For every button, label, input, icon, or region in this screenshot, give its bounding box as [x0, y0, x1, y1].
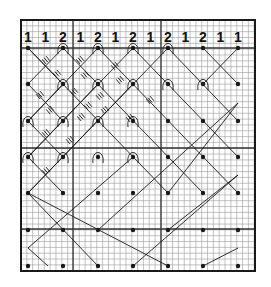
pin-dot: [201, 119, 205, 123]
pin-dot: [236, 191, 240, 195]
pair-count-label: 1: [234, 29, 242, 45]
pin-dot: [201, 191, 205, 195]
pin-dot: [61, 228, 65, 232]
pin-dot: [96, 191, 100, 195]
pair-count-label: 1: [147, 29, 155, 45]
pin-dot: [201, 228, 205, 232]
pin-dot: [166, 191, 170, 195]
pin-dot: [26, 228, 30, 232]
pin-dot: [166, 46, 170, 50]
pin-dot: [166, 228, 170, 232]
pin-dot: [26, 82, 30, 86]
lace-diagram: 1121212121211: [0, 0, 271, 287]
pair-count-label: 1: [182, 29, 190, 45]
pin-dot: [61, 82, 65, 86]
pin-dot: [26, 46, 30, 50]
pin-dot: [201, 82, 205, 86]
pin-dot: [131, 228, 135, 232]
pin-dot: [236, 155, 240, 159]
pin-dot: [236, 264, 240, 268]
pin-dot: [131, 191, 135, 195]
pair-count-label: 2: [94, 29, 102, 45]
pair-count-label: 1: [42, 29, 50, 45]
pin-dot: [236, 82, 240, 86]
pin-dot: [166, 264, 170, 268]
pair-count-label: 2: [199, 29, 207, 45]
pair-count-label: 1: [217, 29, 225, 45]
pair-count-label: 1: [24, 29, 32, 45]
pin-dot: [131, 82, 135, 86]
pin-dot: [131, 46, 135, 50]
pin-dot: [201, 264, 205, 268]
pair-count-label: 2: [59, 29, 67, 45]
pin-dot: [61, 46, 65, 50]
pin-dot: [166, 82, 170, 86]
pin-dot: [131, 155, 135, 159]
pin-dot: [96, 155, 100, 159]
pin-dot: [131, 264, 135, 268]
pin-dot: [61, 119, 65, 123]
pin-dot: [166, 155, 170, 159]
pin-dot: [96, 46, 100, 50]
pin-dot: [61, 191, 65, 195]
pin-dot: [26, 191, 30, 195]
pair-count-label: 1: [77, 29, 85, 45]
pin-dot: [131, 119, 135, 123]
pin-dot: [61, 264, 65, 268]
pin-dot: [201, 155, 205, 159]
pair-count-label: 2: [164, 29, 172, 45]
pin-dot: [26, 264, 30, 268]
pin-dot: [96, 264, 100, 268]
pin-dot: [236, 119, 240, 123]
pin-dot: [26, 155, 30, 159]
pin-dot: [166, 119, 170, 123]
pin-dot: [96, 82, 100, 86]
pin-dot: [201, 46, 205, 50]
pair-count-label: 1: [112, 29, 120, 45]
pin-dot: [236, 228, 240, 232]
pin-dot: [61, 155, 65, 159]
pin-dot: [96, 228, 100, 232]
pin-dot: [236, 46, 240, 50]
pair-count-label: 2: [129, 29, 137, 45]
pin-dot: [26, 119, 30, 123]
pin-dot: [96, 119, 100, 123]
